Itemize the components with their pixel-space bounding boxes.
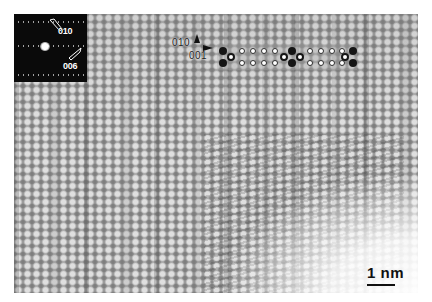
scale-bar-line <box>367 284 395 286</box>
light-atom <box>272 60 278 66</box>
diffraction-spot-row <box>16 74 85 76</box>
heavy-atom <box>219 47 227 55</box>
light-atom <box>250 60 256 66</box>
diffraction-label-010: 010 <box>58 26 72 36</box>
scale-bar: 1 nm <box>367 265 404 286</box>
heavy-atom <box>219 59 227 67</box>
ringed-atom <box>341 53 349 61</box>
ringed-atom <box>296 53 304 61</box>
heavy-atom <box>349 59 357 67</box>
light-atom <box>307 48 313 54</box>
light-atom <box>261 60 267 66</box>
light-atom <box>261 48 267 54</box>
light-atom <box>239 60 245 66</box>
light-atom <box>318 60 324 66</box>
light-atom <box>239 48 245 54</box>
axis-label-010: 010 <box>172 37 190 48</box>
light-atom <box>329 48 335 54</box>
arrow-up-icon <box>193 34 201 44</box>
scale-bar-label: 1 nm <box>367 265 404 281</box>
central-beam-spot <box>40 42 50 51</box>
light-atom <box>272 48 278 54</box>
light-atom <box>250 48 256 54</box>
ringed-atom <box>280 53 288 61</box>
light-atom <box>307 60 313 66</box>
light-atom <box>318 48 324 54</box>
heavy-atom <box>288 59 296 67</box>
diffraction-pattern-inset: 010 006 <box>14 14 87 82</box>
diffraction-label-006: 006 <box>63 61 77 71</box>
ringed-atom <box>227 53 235 61</box>
arrow-right-icon <box>201 44 213 52</box>
light-atom <box>329 60 335 66</box>
atomic-structure-model <box>217 44 357 70</box>
heavy-atom <box>288 47 296 55</box>
heavy-atom <box>349 47 357 55</box>
